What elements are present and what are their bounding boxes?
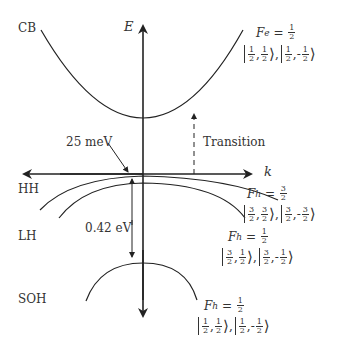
- ket-lh: 32, 12⟩, 32,-12⟩: [222, 248, 294, 266]
- ket-hh: 32, 32⟩, 32,-32⟩: [244, 205, 316, 223]
- fraction: 12: [288, 24, 295, 41]
- state-cb: Fe = 12: [256, 24, 296, 41]
- band-label-lh: LH: [18, 230, 36, 242]
- ket-cb: 12, 12⟩, 12,-12⟩: [244, 45, 316, 63]
- soh-curve: [86, 263, 197, 301]
- band-label-hh: HH: [18, 183, 39, 195]
- cb-curve: [41, 30, 243, 118]
- band-label-cb: CB: [18, 22, 36, 34]
- ket-soh: 12, 12⟩, 12,-12⟩: [198, 317, 270, 335]
- state-soh: Fh = 12: [204, 297, 245, 314]
- state-lh: Fh = 12: [228, 228, 269, 245]
- annotation-25mev: 25 meV: [66, 136, 112, 148]
- state-hh: Fh = 32: [247, 185, 288, 202]
- annotation-042ev: 0.42 eV: [85, 222, 131, 234]
- lh-curve: [59, 183, 245, 218]
- hh-curve: [40, 176, 278, 210]
- k-axis-label: k: [264, 166, 272, 178]
- band-label-soh: SOH: [18, 293, 47, 305]
- annotation-transition: Transition: [203, 136, 265, 148]
- energy-axis-label: E: [124, 21, 134, 33]
